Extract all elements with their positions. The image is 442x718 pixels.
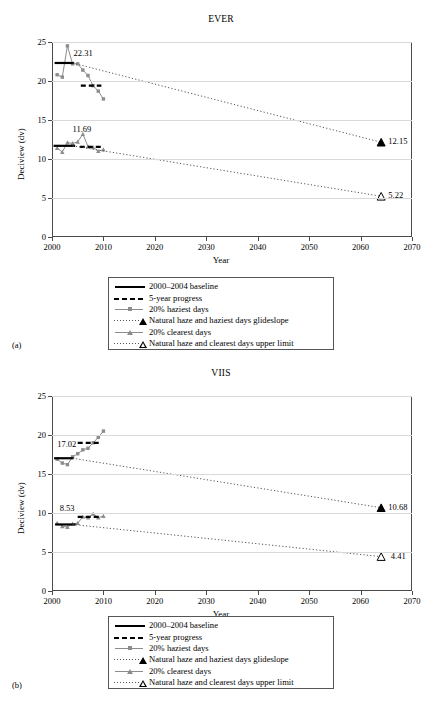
y-axis-tick-label: 10 [20,155,46,164]
legend-item: 2000–2004 baseline [113,620,328,631]
data-point-square-marker [66,463,69,466]
legend-item: Natural haze and haziest days glideslope [113,315,328,326]
legend-item-label: Natural haze and haziest days glideslope [147,315,289,326]
data-point-square-marker [97,89,100,92]
dotted-filled-triangle-icon [113,315,147,326]
legend-item-label: 20% clearest days [147,327,211,338]
x-axis-tick-label: 2060 [344,243,378,252]
solid-line-icon [113,620,147,631]
gridline [52,159,412,160]
y-axis-tick-mark [48,159,52,160]
y-axis-tick-mark [48,81,52,82]
y-axis-tick-label: 25 [20,392,46,401]
dotted-open-triangle-icon [113,338,147,349]
endpoint-value-label: 12.15 [388,137,407,146]
x-axis-title-a: Year [0,255,442,265]
series-glideslope-line [73,146,382,196]
x-axis-tick-mark [412,591,413,595]
x-axis-tick-label: 2040 [241,597,275,606]
plot-area-a: Deciview (dv) Year 051015202520002010202… [0,0,442,270]
legend-item-label: Natural haze and clearest days upper lim… [147,677,294,688]
x-axis-tick-label: 2070 [395,597,429,606]
subfigure-label-a: (a) [12,340,21,350]
baseline-value-label: 8.53 [60,504,75,513]
x-axis-tick-mark [52,591,53,595]
panel-b: VIIS Deciview (dv) Year 0510152025200020… [0,358,442,718]
line-triangle-marker-icon [113,666,147,677]
dotted-filled-triangle-icon [113,654,147,665]
legend-item: Natural haze and haziest days glideslope [113,654,328,665]
y-axis-tick-label: 25 [20,38,46,47]
legend-item-label: 2000–2004 baseline [147,620,218,631]
baseline-value-label: 17.02 [57,440,76,449]
legend-item: 20% haziest days [113,304,328,315]
data-point-square-marker [55,73,58,76]
endpoint-value-label: 10.68 [388,503,407,512]
dashed-line-icon [113,293,147,304]
gridline [52,552,412,553]
legend-item: 20% clearest days [113,666,328,677]
plot-area-b: Deciview (dv) Year 051015202520002010202… [0,358,442,628]
x-axis-tick-mark [361,591,362,595]
y-axis-tick-label: 0 [20,587,46,596]
legend-item-label: 2000–2004 baseline [147,281,218,292]
y-axis-tick-label: 10 [20,509,46,518]
line-square-marker-icon [113,643,147,654]
gridline [52,81,412,82]
data-point-square-marker [76,452,79,455]
x-axis-tick-mark [103,591,104,595]
x-axis-tick-label: 2020 [138,243,172,252]
y-axis-tick-mark [48,396,52,397]
legend-b: 2000–2004 baseline5-year progress20% haz… [108,616,334,689]
gridline [52,474,412,475]
legend-item: 5-year progress [113,292,328,303]
gridline [52,513,412,514]
y-axis-tick-mark [48,552,52,553]
legend-item-label: Natural haze and clearest days upper lim… [147,338,294,349]
x-axis-tick-mark [103,237,104,241]
data-point-square-marker [102,429,105,432]
gridline [52,435,412,436]
baseline-value-label: 11.69 [73,125,92,134]
y-axis-tick-mark [48,474,52,475]
legend-item-label: 20% haziest days [147,304,209,315]
x-axis-tick-label: 2030 [189,243,223,252]
data-point-triangle-marker [101,514,105,518]
legend-item: 20% haziest days [113,643,328,654]
x-axis-tick-label: 2010 [86,243,120,252]
x-axis-tick-label: 2050 [292,243,326,252]
x-axis-tick-mark [206,237,207,241]
y-axis-tick-mark [48,120,52,121]
series-glideslope-line [73,458,382,507]
line-square-marker-icon [113,304,147,315]
legend-item-label: Natural haze and haziest days glideslope [147,654,289,665]
dashed-line-icon [113,632,147,643]
panel-a: EVER Deciview (dv) Year 0510152025200020… [0,0,442,358]
y-axis-tick-mark [48,513,52,514]
legend-item: 5-year progress [113,631,328,642]
subfigure-label-b: (b) [12,680,22,690]
data-point-square-marker [102,97,105,100]
x-axis-tick-mark [361,237,362,241]
legend-item: 20% clearest days [113,327,328,338]
legend-a: 2000–2004 baseline5-year progress20% haz… [108,277,334,350]
endpoint-value-label: 5.22 [388,191,403,200]
x-axis-tick-label: 2070 [395,243,429,252]
x-axis-tick-mark [412,237,413,241]
legend-item: Natural haze and clearest days upper lim… [113,677,328,688]
legend-item-label: 20% haziest days [147,643,209,654]
x-axis-tick-mark [206,591,207,595]
x-axis-tick-mark [52,237,53,241]
x-axis-tick-mark [155,237,156,241]
gridline [52,120,412,121]
data-point-square-marker [61,461,64,464]
line-triangle-marker-icon [113,327,147,338]
legend-item: 2000–2004 baseline [113,281,328,292]
figure-root: EVER Deciview (dv) Year 0510152025200020… [0,0,442,718]
x-axis-tick-mark [155,591,156,595]
y-axis-tick-label: 15 [20,470,46,479]
x-axis-tick-label: 2030 [189,597,223,606]
legend-item-label: 5-year progress [147,293,202,304]
data-point-square-marker [81,68,84,71]
x-axis-tick-label: 2040 [241,243,275,252]
